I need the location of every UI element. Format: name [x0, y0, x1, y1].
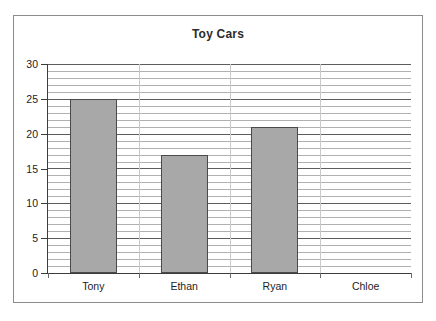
- x-axis-tick-mark: [48, 273, 49, 278]
- bar-slot: [320, 64, 411, 273]
- x-axis-tick-label: Ethan: [139, 280, 230, 292]
- y-axis-tick-label: 0: [14, 267, 38, 279]
- y-axis-tick-mark: [41, 64, 48, 65]
- chart-title: Toy Cars: [14, 27, 422, 41]
- bar-series: [48, 64, 411, 273]
- bar-slot: [48, 64, 139, 273]
- y-axis-labels: 302520151050: [14, 16, 38, 302]
- x-axis-tick-label: Tony: [48, 280, 139, 292]
- x-axis-tick-label: Chloe: [320, 280, 411, 292]
- y-axis-tick-mark: [41, 203, 48, 204]
- y-axis-tick-label: 15: [14, 163, 38, 175]
- y-axis-tick-label: 10: [14, 197, 38, 209]
- y-axis-tick-mark: [41, 99, 48, 100]
- bar-slot: [139, 64, 230, 273]
- y-axis-tick-mark: [41, 134, 48, 135]
- x-axis-tick-mark: [230, 273, 231, 278]
- y-axis-tick-mark: [41, 273, 48, 274]
- y-axis-tick-mark: [41, 169, 48, 170]
- x-axis-tick-mark: [411, 273, 412, 278]
- bar-ethan[interactable]: [161, 155, 208, 273]
- bar-ryan[interactable]: [251, 127, 298, 273]
- y-axis-tick-label: 20: [14, 128, 38, 140]
- bar-tony[interactable]: [70, 99, 117, 273]
- y-axis-tick-label: 30: [14, 58, 38, 70]
- x-axis-tick-mark: [320, 273, 321, 278]
- x-axis-labels: TonyEthanRyanChloe: [48, 280, 411, 292]
- x-axis-tick-mark: [139, 273, 140, 278]
- chart-frame: Toy Cars 302520151050 TonyEthanRyanChloe: [13, 15, 423, 303]
- y-axis-tick-label: 25: [14, 93, 38, 105]
- x-axis-tick-label: Ryan: [230, 280, 321, 292]
- bar-slot: [230, 64, 321, 273]
- y-axis-tick-mark: [41, 238, 48, 239]
- plot-area: [48, 64, 411, 273]
- y-axis-tick-label: 5: [14, 232, 38, 244]
